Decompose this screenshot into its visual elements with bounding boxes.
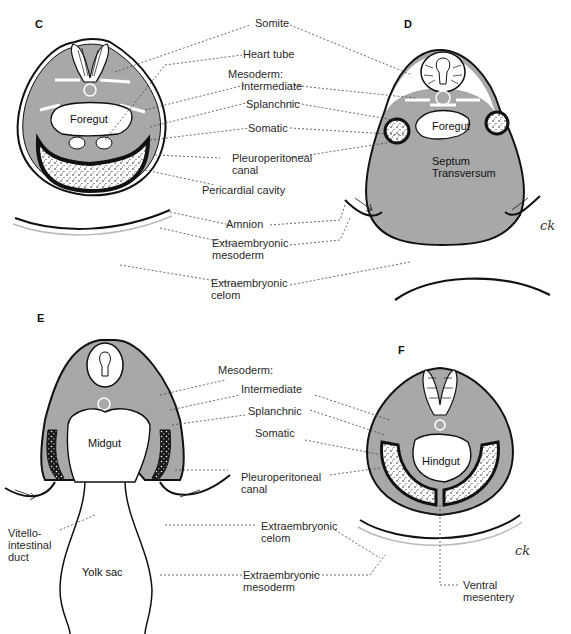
signature-d: ck <box>540 218 555 233</box>
label-somite: Somite <box>255 17 289 29</box>
signature-f: ck <box>515 543 530 558</box>
panel-letter-f: F <box>398 344 405 356</box>
hindgut-label: Hindgut <box>422 455 460 467</box>
foregut-label-d: Foregut <box>432 120 470 132</box>
label-intermediate-top: Intermediate <box>241 80 302 92</box>
label-pleuroperitoneal-bottom: Pleuroperitoneal canal <box>241 471 321 495</box>
label-extraembryonic-celom-top: Extraembryonic celom <box>211 277 287 301</box>
label-extraembryonic-mesoderm-top: Extraembryonic mesoderm <box>212 237 288 261</box>
label-mesoderm-heading-bottom: Mesoderm: <box>218 364 273 376</box>
label-somatic-bottom: Somatic <box>255 427 295 439</box>
label-pericardial-cavity: Pericardial cavity <box>202 184 285 196</box>
label-intermediate-bottom: Intermediate <box>241 383 302 395</box>
midgut-label: Midgut <box>88 437 121 449</box>
septum-transversum-label: Septum Transversum <box>432 155 496 179</box>
panel-c-illustration <box>13 39 172 235</box>
label-ventral-mesentery: Ventral mesentery <box>463 579 514 603</box>
panel-letter-d: D <box>404 18 412 30</box>
label-extraembryonic-mesoderm-bottom: Extraembryonic mesoderm <box>243 569 319 593</box>
panel-letter-e: E <box>37 312 44 324</box>
label-vitello-intestinal-duct: Vitello- intestinal duct <box>8 527 51 563</box>
label-somatic-top: Somatic <box>248 122 288 134</box>
label-splanchnic-bottom: Splanchnic <box>248 405 302 417</box>
label-mesoderm-heading-top: Mesoderm: <box>228 68 283 80</box>
label-extraembryonic-celom-bottom: Extraembryonic celom <box>261 520 337 544</box>
label-pleuroperitoneal-top: Pleuroperitoneal canal <box>232 152 312 176</box>
panel-letter-c: C <box>35 18 43 30</box>
label-splanchnic-top: Splanchnic <box>246 98 300 110</box>
panel-e-illustration <box>5 340 230 634</box>
label-amnion: Amnion <box>226 218 263 230</box>
yolk-sac-label: Yolk sac <box>82 566 123 578</box>
foregut-label-c: Foregut <box>70 113 108 125</box>
label-heart-tube: Heart tube <box>243 48 294 60</box>
